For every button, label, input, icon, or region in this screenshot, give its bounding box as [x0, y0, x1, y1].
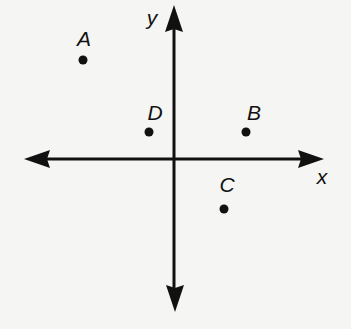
point-d-dot — [145, 128, 154, 137]
point-a-dot — [79, 56, 88, 65]
point-b-dot — [242, 128, 251, 137]
coordinate-plane: y x A D B C — [0, 0, 351, 329]
point-label-a: A — [77, 28, 91, 49]
point-label-c: C — [219, 174, 234, 195]
axes-graphic — [0, 0, 351, 329]
y-axis-top-arrow-icon — [165, 5, 183, 32]
point-label-b: B — [247, 102, 261, 123]
point-label-d: D — [147, 102, 162, 123]
x-axis-label: x — [317, 166, 328, 187]
point-c-dot — [220, 205, 229, 214]
y-axis-label: y — [147, 7, 158, 28]
y-axis-bottom-arrow-icon — [166, 285, 184, 312]
x-axis-left-arrow-icon — [24, 150, 50, 168]
